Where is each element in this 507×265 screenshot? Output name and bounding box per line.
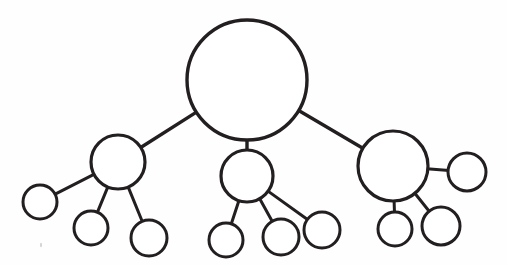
node-leaf-m1[interactable] [209,223,243,257]
node-leaf-l3[interactable] [131,220,167,256]
nodes-group [23,20,486,257]
node-leaf-m2[interactable] [263,219,299,255]
node-branch-right[interactable] [358,131,428,201]
scan-artifacts-group [40,243,42,247]
node-tree-diagram [0,0,507,265]
node-branch-middle[interactable] [221,150,273,202]
edge-left-leaf1 [54,174,95,195]
edge-root-right [298,110,364,149]
node-branch-left[interactable] [91,135,145,189]
node-leaf-l1[interactable] [23,185,57,219]
node-root[interactable] [187,20,307,140]
node-leaf-m3[interactable] [304,212,340,248]
node-leaf-r1[interactable] [378,212,412,246]
edge-left-leaf2 [97,186,108,213]
node-leaf-l2[interactable] [74,211,108,245]
speck-1 [40,243,42,247]
node-leaf-r2[interactable] [422,207,460,245]
edge-middle-leaf3 [267,191,308,220]
edge-middle-leaf1 [231,200,239,225]
edge-right-leaf2 [414,193,430,212]
node-leaf-r3[interactable] [448,153,486,191]
edge-middle-leaf2 [259,198,273,222]
edge-left-leaf3 [128,186,143,222]
edge-right-leaf3 [427,169,449,171]
edge-root-left [140,112,197,148]
diagram-canvas [0,0,507,265]
